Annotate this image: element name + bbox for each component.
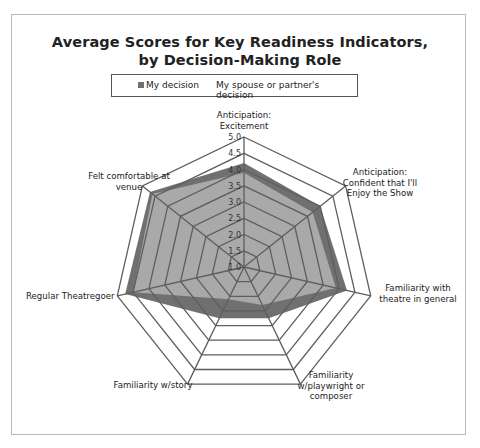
axis-label: venue bbox=[116, 182, 143, 192]
axis-label: Excitement bbox=[220, 121, 269, 131]
axis-label: Familiarity bbox=[309, 370, 354, 380]
axis-label: Confident that I'll bbox=[343, 178, 417, 188]
tick-label: 2.5 bbox=[228, 214, 241, 223]
tick-label: 4.0 bbox=[228, 166, 241, 175]
axis-label: Felt comfortable at bbox=[88, 171, 170, 181]
tick-label: 3.0 bbox=[228, 198, 241, 207]
radar-chart: 1.01.52.02.53.03.54.04.55.0Anticipation:… bbox=[0, 0, 480, 448]
axis-label: Anticipation: bbox=[217, 110, 271, 120]
tick-label: 2.0 bbox=[228, 231, 241, 240]
tick-label: 1.0 bbox=[228, 263, 241, 272]
tick-label: 3.5 bbox=[228, 182, 241, 191]
axis-label: Enjoy the Show bbox=[347, 188, 413, 198]
axis-label: w/playwright or bbox=[298, 381, 365, 391]
tick-label: 1.5 bbox=[228, 247, 241, 256]
tick-label: 5.0 bbox=[228, 133, 241, 142]
axis-label: Familiarity with bbox=[385, 283, 451, 293]
axis-label: composer bbox=[310, 391, 353, 401]
axis-label: Familiarity w/story bbox=[114, 380, 193, 390]
tick-label: 4.5 bbox=[228, 149, 241, 158]
axis-label: Regular Theatregoer bbox=[26, 291, 115, 301]
axis-label: Anticipation: bbox=[353, 167, 407, 177]
axis-label: theatre in general bbox=[379, 294, 456, 304]
